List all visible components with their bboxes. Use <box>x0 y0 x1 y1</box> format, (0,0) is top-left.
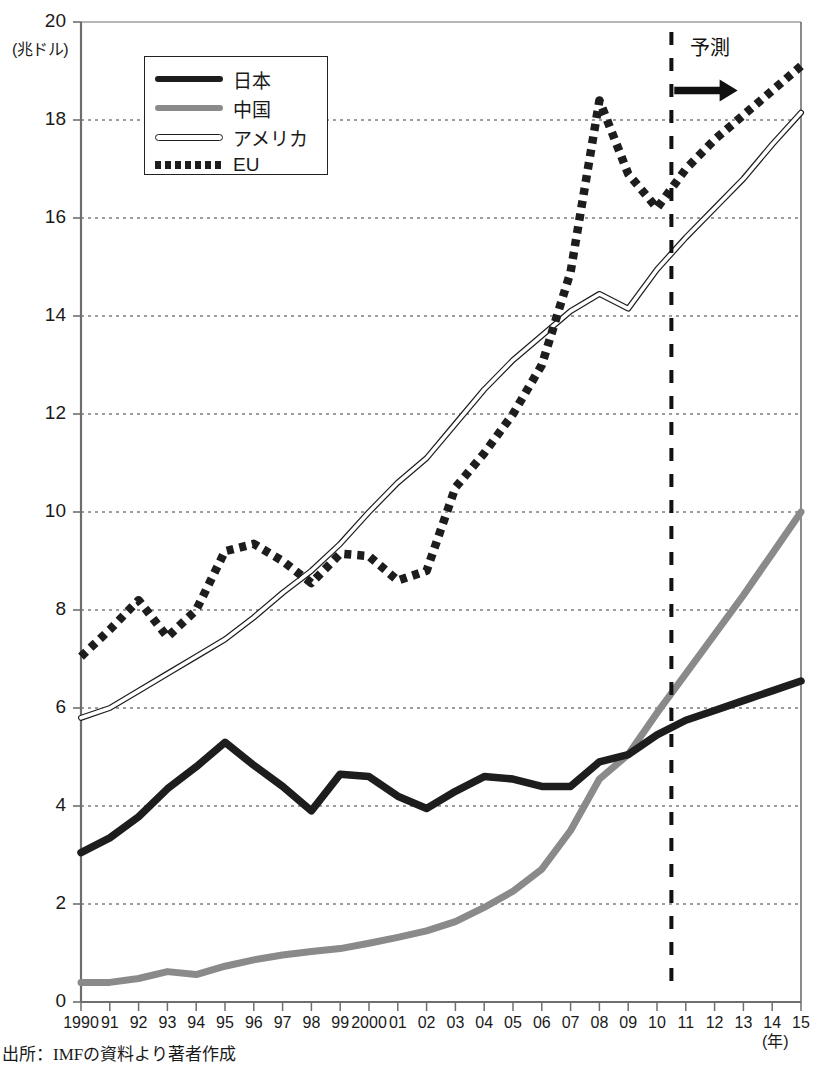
chart-figure: (兆ドル) (年) 日本 中国 アメリカ EU 予測 出所：IMFの資料より著者… <box>0 0 821 1075</box>
y-tick-label-16: 16 <box>20 206 66 228</box>
forecast-label: 予測 <box>690 32 730 61</box>
y-tick-label-10: 10 <box>20 500 66 522</box>
forecast-arrow-head <box>720 80 738 102</box>
y-tick-label-2: 2 <box>20 892 66 914</box>
legend-swatch-japan <box>155 72 223 86</box>
legend-label-japan: 日本 <box>233 66 271 93</box>
x-tick-label-2015: 15 <box>779 1014 821 1032</box>
legend-item-eu: EU <box>155 152 323 178</box>
series-line-japan <box>81 681 801 853</box>
chart-canvas <box>0 0 821 1075</box>
legend-swatch-eu <box>155 158 223 172</box>
y-tick-label-6: 6 <box>20 696 66 718</box>
legend-item-usa: アメリカ <box>155 124 323 150</box>
legend-label-china: 中国 <box>233 95 271 122</box>
series-line-china <box>81 512 801 982</box>
series-line-usa-fill <box>81 113 801 718</box>
legend-label-usa: アメリカ <box>233 124 308 151</box>
source-note: 出所：IMFの資料より著者作成 <box>2 1040 236 1065</box>
y-tick-label-12: 12 <box>20 402 66 424</box>
y-tick-label-8: 8 <box>20 598 66 620</box>
legend-item-japan: 日本 <box>155 66 323 92</box>
legend-label-eu: EU <box>233 154 259 176</box>
legend-swatch-usa <box>155 130 223 144</box>
y-axis-unit-label: (兆ドル) <box>12 36 68 60</box>
legend-item-china: 中国 <box>155 95 323 121</box>
y-tick-label-20: 20 <box>20 10 66 32</box>
y-tick-label-18: 18 <box>20 108 66 130</box>
chart-legend: 日本 中国 アメリカ EU <box>144 56 328 175</box>
y-tick-label-14: 14 <box>20 304 66 326</box>
series-line-usa-outline <box>81 113 801 718</box>
legend-swatch-china <box>155 101 223 115</box>
y-tick-label-0: 0 <box>20 990 66 1012</box>
y-tick-label-4: 4 <box>20 794 66 816</box>
